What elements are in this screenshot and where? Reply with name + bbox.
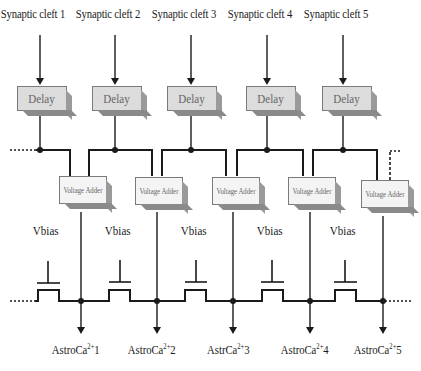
- adder-label: Voltage Adder: [140, 178, 179, 205]
- vbias-label-3: Vbias: [181, 223, 207, 239]
- input-label-4: Synaptic cleft 4: [228, 6, 292, 22]
- vbias-label-1: Vbias: [33, 223, 59, 239]
- voltage-adder-4: Voltage Adder: [288, 177, 336, 205]
- output-arrowheads: [77, 327, 387, 334]
- delay-label: Delay: [258, 87, 284, 111]
- lower-junction-dots: [78, 298, 386, 304]
- output-label-3: AstrCa2+3: [207, 342, 250, 358]
- input-label-1: Synaptic cleft 1: [1, 6, 65, 22]
- output-label-4: AstroCa2+4: [281, 342, 329, 358]
- delay-box-1: Delay: [17, 86, 67, 111]
- delay-box-3: Delay: [167, 86, 217, 111]
- delay-label: Delay: [29, 87, 55, 111]
- adder-label: Voltage Adder: [366, 181, 405, 208]
- vbias-label-2: Vbias: [105, 223, 131, 239]
- transistor-gates: [37, 260, 357, 283]
- adder-label: Voltage Adder: [293, 178, 332, 205]
- delay-label: Delay: [104, 87, 130, 111]
- input-arrows: [40, 35, 343, 78]
- output-label-2: AstroCa2+2: [128, 342, 176, 358]
- voltage-adder-1: Voltage Adder: [59, 176, 107, 204]
- astrocyte-delay-adder-diagram: Synaptic cleft 1 Synaptic cleft 2 Synapt…: [0, 0, 421, 371]
- voltage-adder-3: Voltage Adder: [212, 177, 260, 205]
- voltage-adder-5: Voltage Adder: [361, 180, 409, 208]
- delay-box-4: Delay: [246, 86, 296, 111]
- output-label-1: AstroCa2+1: [52, 342, 100, 358]
- vbias-label-4: Vbias: [257, 223, 283, 239]
- adder-label: Voltage Adder: [64, 177, 103, 204]
- input-label-5: Synaptic cleft 5: [304, 6, 368, 22]
- vbias-label-5: Vbias: [330, 223, 356, 239]
- voltage-adder-2: Voltage Adder: [135, 177, 183, 205]
- delay-label: Delay: [334, 87, 360, 111]
- delay-box-2: Delay: [92, 86, 142, 111]
- output-label-5: AstroCa2+5: [354, 342, 402, 358]
- delay-box-5: Delay: [322, 86, 372, 111]
- input-label-3: Synaptic cleft 3: [152, 6, 216, 22]
- adder-label: Voltage Adder: [217, 178, 256, 205]
- input-label-2: Synaptic cleft 2: [76, 6, 140, 22]
- delay-label: Delay: [179, 87, 205, 111]
